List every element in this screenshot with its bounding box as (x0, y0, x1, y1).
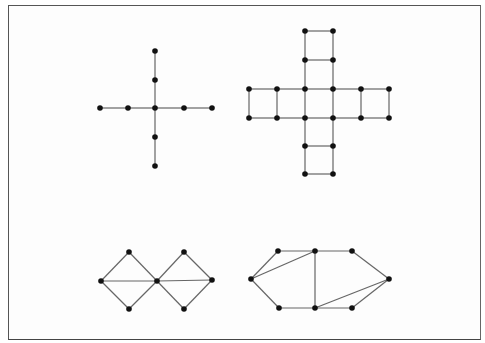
graph-node (386, 276, 392, 282)
graph-node (302, 115, 308, 121)
graph-edge (101, 281, 129, 309)
graph-node (152, 134, 158, 140)
graph-edge (157, 280, 212, 281)
graph-node (181, 105, 187, 111)
graph-node (312, 305, 318, 311)
graph-node (181, 249, 187, 255)
graph-node (246, 115, 252, 121)
graph-node (152, 163, 158, 169)
graph-node (248, 276, 254, 282)
graph-node (386, 86, 392, 92)
graph-node (302, 143, 308, 149)
graph-node (275, 248, 281, 254)
graph-node (152, 48, 158, 54)
graph-node (181, 306, 187, 312)
graph-node (312, 248, 318, 254)
graph-node (302, 28, 308, 34)
graph-node (152, 105, 158, 111)
graph-node (330, 143, 336, 149)
graph-node (330, 171, 336, 177)
graph-node (330, 57, 336, 63)
graph-edge (129, 281, 157, 309)
graph-edge (101, 252, 129, 281)
graph-node (302, 57, 308, 63)
graph-node (302, 171, 308, 177)
graph-node (98, 278, 104, 284)
graph-node (302, 86, 308, 92)
graph-node (330, 86, 336, 92)
graph-node (386, 115, 392, 121)
graph-edge (129, 252, 157, 281)
graph-canvas (0, 0, 485, 343)
graph-edge (184, 252, 212, 280)
graph-node (330, 28, 336, 34)
graph-node (349, 248, 355, 254)
graph-edge (352, 279, 389, 308)
graph-edge (184, 280, 212, 309)
grid-cross-graph (246, 28, 392, 177)
graph-node (152, 77, 158, 83)
graph-node (358, 115, 364, 121)
hexagon-triangulated-graph (248, 248, 392, 311)
graph-node (154, 278, 160, 284)
double-diamond-graph (98, 249, 215, 312)
graph-node (276, 305, 282, 311)
graph-node (246, 86, 252, 92)
graph-node (209, 105, 215, 111)
graph-edge (251, 251, 315, 279)
cross-graph (97, 48, 215, 169)
graph-node (330, 115, 336, 121)
graph-edge (157, 281, 184, 309)
graph-node (125, 105, 131, 111)
graph-edge (315, 279, 389, 308)
graph-node (274, 115, 280, 121)
graph-node (97, 105, 103, 111)
graph-edge (251, 279, 279, 308)
graph-node (209, 277, 215, 283)
graph-node (358, 86, 364, 92)
graph-node (126, 306, 132, 312)
graph-node (126, 249, 132, 255)
graph-edge (251, 251, 278, 279)
graph-node (349, 305, 355, 311)
graph-edge (157, 252, 184, 281)
graph-edge (352, 251, 389, 279)
graph-node (274, 86, 280, 92)
